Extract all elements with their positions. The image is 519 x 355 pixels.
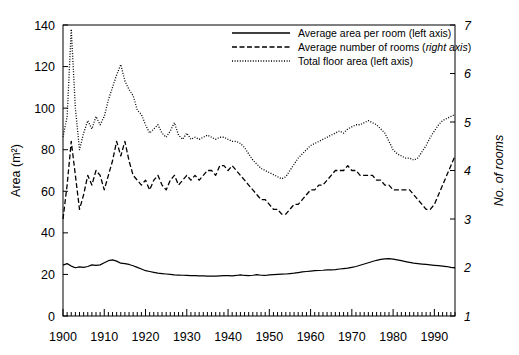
- x-tick-label: 1980: [379, 330, 407, 344]
- x-tick-label: 1920: [132, 330, 160, 344]
- line-chart: Average area per room (left axis)Average…: [0, 0, 519, 355]
- y-tick-label-left: 20: [41, 268, 55, 282]
- y-tick-label-left: 60: [41, 185, 55, 199]
- x-tick-label: 1950: [255, 330, 283, 344]
- y-axis-label-left: Area (m²): [9, 144, 23, 197]
- x-tick-label: 1940: [214, 330, 242, 344]
- y-tick-label-right: 2: [463, 261, 471, 275]
- series-line-solid: [63, 259, 455, 276]
- chart-container: Average area per room (left axis)Average…: [0, 0, 519, 355]
- y-tick-label-left: 80: [41, 143, 55, 157]
- label-layer: 0204060801001201401234567190019101920193…: [9, 19, 506, 345]
- y-tick-label-left: 0: [48, 310, 55, 324]
- x-tick-label: 1990: [420, 330, 448, 344]
- y-tick-label-left: 100: [34, 102, 55, 116]
- y-tick-label-right: 3: [464, 213, 471, 227]
- x-tick-label: 1930: [173, 330, 201, 344]
- y-tick-label-right: 7: [464, 19, 472, 33]
- y-tick-label-right: 5: [464, 116, 471, 130]
- x-tick-label: 1900: [49, 330, 77, 344]
- legend-label: Average number of rooms (right axis): [298, 41, 471, 53]
- y-tick-label-right: 6: [464, 67, 471, 81]
- legend-label: Total floor area (left axis): [298, 55, 413, 67]
- y-axis-label-right: No. of rooms: [492, 135, 506, 207]
- x-tick-label: 1970: [338, 330, 366, 344]
- legend-label: Average area per room (left axis): [298, 27, 451, 39]
- y-tick-label-right: 1: [464, 310, 471, 324]
- y-tick-label-left: 140: [34, 19, 55, 33]
- y-tick-label-left: 40: [41, 226, 55, 240]
- legend-layer: Average area per room (left axis)Average…: [232, 27, 471, 67]
- y-tick-label-left: 120: [34, 60, 55, 74]
- x-tick-label: 1910: [90, 330, 118, 344]
- x-tick-label: 1960: [297, 330, 325, 344]
- y-tick-label-right: 4: [464, 164, 471, 178]
